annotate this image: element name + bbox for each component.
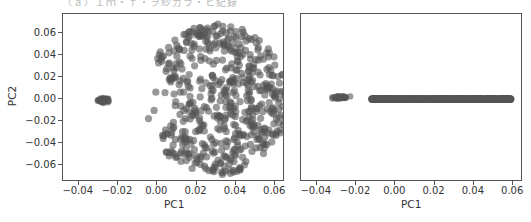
data-point xyxy=(229,89,236,96)
data-point xyxy=(232,45,239,52)
x-tick-label: −0.02 xyxy=(340,185,371,196)
left-scatter-plot xyxy=(62,13,284,181)
data-point xyxy=(341,95,347,101)
data-point xyxy=(167,122,174,129)
data-point xyxy=(145,115,152,122)
data-point xyxy=(189,165,196,172)
y-tick-label: 0.02 xyxy=(16,71,56,82)
data-point xyxy=(196,45,203,52)
data-point xyxy=(218,76,225,83)
data-point xyxy=(221,163,228,170)
left-x-axis-label: PC1 xyxy=(164,198,184,210)
data-point xyxy=(246,88,253,95)
data-point xyxy=(186,33,193,40)
data-point xyxy=(170,75,177,82)
x-tick-label: 0.06 xyxy=(263,185,285,196)
data-point xyxy=(222,115,229,122)
data-point xyxy=(210,61,217,68)
data-point xyxy=(183,105,190,112)
data-point xyxy=(197,53,204,60)
data-point xyxy=(202,79,209,86)
data-point xyxy=(427,96,434,103)
data-point xyxy=(248,97,255,104)
data-point xyxy=(269,90,276,97)
data-point xyxy=(260,150,267,157)
data-point xyxy=(252,105,259,112)
data-point xyxy=(161,89,168,96)
data-point xyxy=(256,37,263,44)
data-point xyxy=(159,53,166,60)
data-point xyxy=(232,130,239,137)
data-point xyxy=(211,148,218,155)
data-point xyxy=(199,122,206,129)
data-point xyxy=(253,144,260,151)
x-tick-label: 0.06 xyxy=(501,185,523,196)
left-plot-points xyxy=(63,14,284,181)
data-point xyxy=(452,96,459,103)
y-tick xyxy=(58,164,62,165)
data-point xyxy=(173,53,180,60)
data-point xyxy=(208,96,215,103)
data-point xyxy=(170,90,177,97)
data-point xyxy=(242,47,249,54)
data-point xyxy=(237,98,244,105)
data-point xyxy=(196,78,203,85)
data-point xyxy=(263,85,270,92)
y-tick xyxy=(58,76,62,77)
data-point xyxy=(230,121,237,128)
data-point xyxy=(186,71,193,78)
data-point xyxy=(177,136,184,143)
data-point xyxy=(250,121,257,128)
data-point xyxy=(214,125,221,132)
data-point xyxy=(192,128,199,135)
x-tick-label: 0.04 xyxy=(462,185,484,196)
data-point xyxy=(169,149,176,156)
data-point xyxy=(255,44,262,51)
data-point xyxy=(177,77,184,84)
data-point xyxy=(182,115,189,122)
data-point xyxy=(495,96,502,103)
data-point xyxy=(417,96,424,103)
data-point xyxy=(173,64,180,71)
y-tick xyxy=(58,98,62,99)
data-point xyxy=(236,147,243,154)
data-point xyxy=(369,96,376,103)
data-point xyxy=(180,151,187,158)
y-tick-label: 0.00 xyxy=(16,93,56,104)
data-point xyxy=(187,53,194,60)
data-point xyxy=(246,63,253,70)
data-point xyxy=(271,62,278,69)
data-point xyxy=(245,108,252,115)
x-tick-label: 0.02 xyxy=(184,185,206,196)
data-point xyxy=(218,140,225,147)
data-point xyxy=(239,26,246,33)
data-point xyxy=(270,53,277,60)
data-point xyxy=(179,128,186,135)
data-point xyxy=(248,36,255,43)
data-point xyxy=(184,77,191,84)
data-point xyxy=(260,56,267,63)
data-point xyxy=(266,71,273,78)
data-point xyxy=(151,107,158,114)
data-point xyxy=(97,95,103,101)
data-point xyxy=(224,42,231,49)
data-point xyxy=(466,96,473,103)
data-point xyxy=(229,74,236,81)
data-point xyxy=(329,94,335,100)
data-point xyxy=(218,147,225,154)
data-point xyxy=(186,93,193,100)
data-point xyxy=(440,96,447,103)
data-point xyxy=(403,96,410,103)
data-point xyxy=(217,97,224,104)
data-point xyxy=(214,20,221,27)
data-point xyxy=(171,37,178,44)
data-point xyxy=(176,46,183,53)
data-point xyxy=(275,119,282,126)
data-point xyxy=(193,159,200,166)
figure-caption: （ａ）Ｉｍ・ｆ・ヲ紗ガラ・ヒ紀錄 xyxy=(62,0,238,9)
data-point xyxy=(255,83,262,90)
data-point xyxy=(227,27,234,34)
data-point xyxy=(191,62,198,69)
data-point xyxy=(219,57,226,64)
data-point xyxy=(236,164,243,171)
